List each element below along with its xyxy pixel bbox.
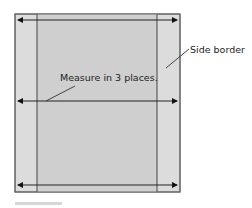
measurement-diagram: Measure in 3 places. Side border	[0, 0, 252, 208]
side-border-label: Side border	[190, 44, 245, 55]
measure-label: Measure in 3 places.	[60, 72, 158, 83]
footer-bar	[15, 202, 62, 205]
center-area	[37, 14, 157, 192]
